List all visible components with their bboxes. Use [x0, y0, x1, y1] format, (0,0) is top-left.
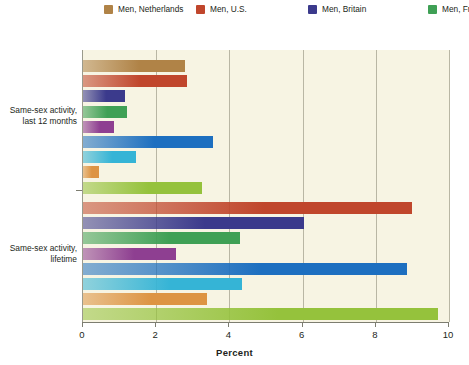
x-tick-10 — [448, 322, 449, 327]
bar-group1-men-netherlands — [83, 60, 185, 72]
legend-swatch-icon — [308, 5, 317, 14]
y-category-label-line: Same-sex activity, — [1, 243, 77, 254]
y-category-label-1: Same-sex activity,last 12 months — [1, 105, 77, 127]
legend-swatch-icon — [196, 5, 205, 14]
bar-group1-men-france — [83, 106, 127, 118]
legend-item-label: Men, Netherlands — [118, 5, 184, 13]
bar-group2-men-new-zealand — [83, 263, 407, 275]
bar-group2-men-u-s — [83, 202, 412, 214]
y-category-label-line: last 12 months — [1, 116, 77, 127]
legend-item-label: Men, Britain — [322, 5, 366, 13]
bar-group2-men-france — [83, 232, 240, 244]
bar-group2-women-u-s — [83, 278, 242, 290]
legend-item-men_us: Men, U.S. — [196, 5, 308, 14]
bar-group2-men-britain — [83, 217, 304, 229]
x-tick-label: 4 — [226, 329, 231, 340]
bar-group2-women-britain — [83, 293, 207, 305]
bar-group1-women-new-zealand — [83, 182, 202, 194]
gridline-6 — [303, 50, 304, 322]
legend-swatch-icon — [104, 5, 113, 14]
plot-area — [82, 50, 449, 322]
x-tick-label: 6 — [299, 329, 304, 340]
legend-item-label: Men, France — [442, 5, 469, 13]
bar-group1-women-britain — [83, 166, 99, 178]
x-tick-6 — [302, 322, 303, 327]
bar-group1-men-new-zealand — [83, 136, 213, 148]
x-tick-label: 8 — [372, 329, 377, 340]
x-tick-8 — [375, 322, 376, 327]
chart-legend: Men, NetherlandsMen, U.S.Men, BritainMen… — [104, 2, 464, 46]
y-category-label-2: Same-sex activity,lifetime — [1, 243, 77, 265]
x-tick-2 — [155, 322, 156, 327]
bar-group1-women-u-s — [83, 151, 136, 163]
x-tick-0 — [82, 322, 83, 327]
legend-item-men_britain: Men, Britain — [308, 5, 428, 14]
x-tick-label: 2 — [153, 329, 158, 340]
x-tick-label: 0 — [79, 329, 84, 340]
x-tick-label: 10 — [443, 329, 454, 340]
gridline-8 — [376, 50, 377, 322]
y-category-label-line: lifetime — [1, 254, 77, 265]
legend-swatch-icon — [428, 5, 437, 14]
bar-group2-men-mexico — [83, 248, 176, 260]
y-category-label-line: Same-sex activity, — [1, 105, 77, 116]
legend-item-men_france: Men, France — [428, 5, 469, 14]
x-tick-4 — [228, 322, 229, 327]
legend-item-label: Men, U.S. — [210, 5, 247, 13]
x-axis-title: Percent — [0, 347, 469, 358]
legend-item-men_netherlands: Men, Netherlands — [104, 5, 196, 14]
gridline-10 — [449, 50, 450, 322]
bar-group2-women-new-zealand — [83, 308, 438, 320]
bar-group1-men-britain — [83, 90, 125, 102]
bar-group1-men-u-s — [83, 75, 187, 87]
y-axis-break-tick — [76, 190, 82, 191]
bar-group1-men-mexico — [83, 121, 114, 133]
x-axis-line — [82, 322, 449, 323]
